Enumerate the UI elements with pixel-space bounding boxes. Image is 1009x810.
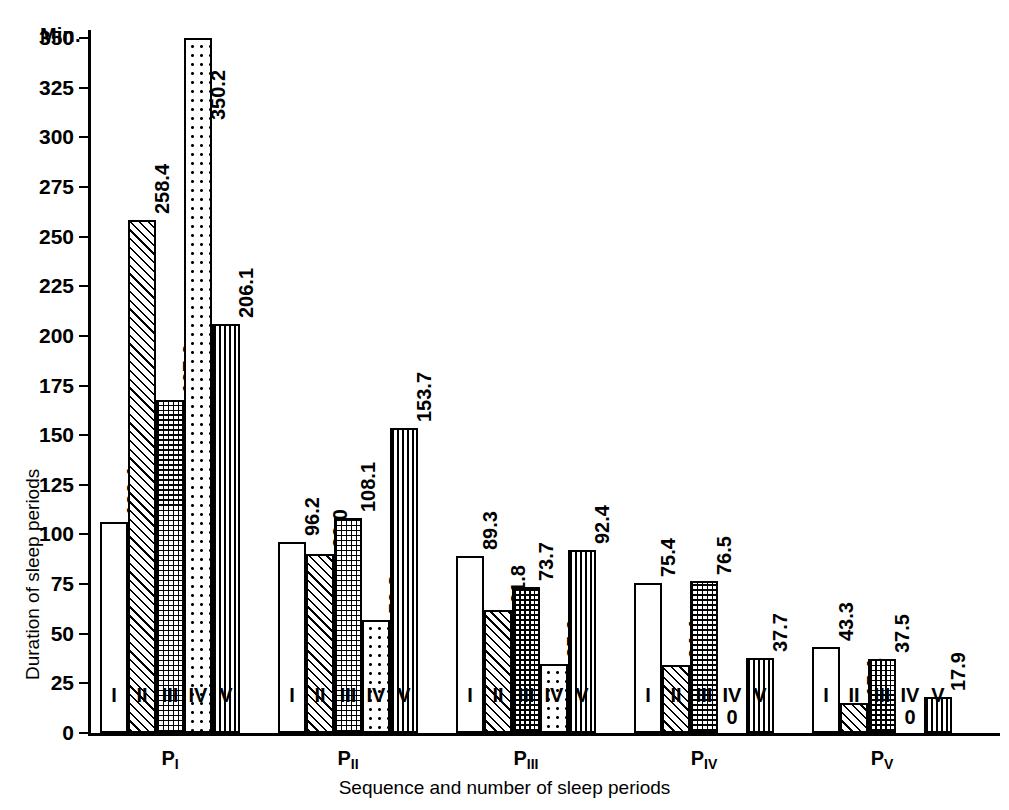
x-axis-line [88,733,1000,736]
y-tick-mark [79,633,88,635]
zero-value-marker: 0 [718,707,746,727]
y-tick-mark [79,732,88,734]
y-tick-label: 75 [2,572,74,596]
bar-value-label: 108.1 [358,462,378,512]
bar-roman-label: I [456,685,484,705]
y-tick-mark [79,136,88,138]
group-label-main: P [513,747,526,769]
group-label-sub: II [351,756,359,772]
bar-value-label: 37.7 [770,613,790,652]
y-tick-label: 225 [2,274,74,298]
bar-roman-label: II [128,685,156,705]
bar-i-ii [128,220,156,733]
bar-roman-label: V [924,685,952,705]
bar-value-label: 96.2 [302,497,322,536]
bar-roman-label: IV [896,685,924,705]
y-tick-label: 325 [2,76,74,100]
bar-value-label: 206.1 [236,268,256,318]
bar-roman-label: II [484,685,512,705]
bar-roman-label: IV [184,685,212,705]
y-tick-label: 150 [2,423,74,447]
x-axis-title: Sequence and number of sleep periods [0,777,1009,799]
bar-iii-iii [512,587,540,733]
y-tick-label: 175 [2,374,74,398]
bar-roman-label: V [390,685,418,705]
bar-value-label: 43.3 [836,602,856,641]
bar-iii-ii [484,610,512,733]
y-tick-label: 200 [2,324,74,348]
group-label-sub: V [884,756,893,772]
y-tick-mark [79,434,88,436]
bar-roman-label: I [812,685,840,705]
y-tick-label: 125 [2,473,74,497]
bar-roman-label: III [156,685,184,705]
bar-value-label: 76.5 [714,536,734,575]
bar-v-ii [840,703,868,733]
y-tick-mark [79,236,88,238]
y-axis-line [88,30,91,736]
y-tick-mark [79,37,88,39]
group-label-main: P [161,747,174,769]
bar-iv-i [634,583,662,733]
bar-roman-label: IV [718,685,746,705]
bar-roman-label: III [690,685,718,705]
group-label-main: P [691,747,704,769]
group-label-v: PV [772,747,992,770]
bar-roman-label: II [840,685,868,705]
bar-i-v [212,324,240,733]
bar-roman-label: III [334,685,362,705]
y-tick-mark [79,583,88,585]
bar-roman-label: I [634,685,662,705]
bar-roman-label: III [512,685,540,705]
group-label-sub: IV [704,756,717,772]
bar-roman-label: II [306,685,334,705]
bar-chart: Min. Duration of sleep periods Sequence … [0,0,1009,810]
y-tick-label: 300 [2,125,74,149]
y-tick-label: 250 [2,225,74,249]
bar-value-label: 258.4 [152,164,172,214]
bar-roman-label: I [100,685,128,705]
bar-value-label: 73.7 [536,542,556,581]
group-label-main: P [871,747,884,769]
bar-roman-label: V [212,685,240,705]
y-tick-label: 25 [2,671,74,695]
y-tick-mark [79,285,88,287]
y-tick-mark [79,533,88,535]
y-tick-label: 50 [2,622,74,646]
bar-ii-iv [362,620,390,733]
bar-value-label: 350.2 [208,70,228,120]
bar-iv-iii [690,581,718,733]
y-tick-label: 275 [2,175,74,199]
y-tick-mark [79,484,88,486]
group-label-main: P [337,747,350,769]
y-tick-mark [79,87,88,89]
bar-roman-label: V [746,685,774,705]
y-tick-label: 0 [2,721,74,745]
bar-value-label: 153.7 [414,372,434,422]
bar-roman-label: III [868,685,896,705]
y-tick-label: 350 [2,26,74,50]
bar-value-label: 89.3 [480,511,500,550]
bar-roman-label: IV [540,685,568,705]
bar-value-label: 92.4 [592,505,612,544]
y-tick-mark [79,385,88,387]
bar-roman-label: II [662,685,690,705]
bar-roman-label: IV [362,685,390,705]
zero-value-marker: 0 [896,707,924,727]
bar-roman-label: V [568,685,596,705]
group-label-sub: I [175,756,179,772]
y-tick-mark [79,186,88,188]
bar-iii-i [456,556,484,733]
bar-ii-ii [306,554,334,733]
bar-value-label: 37.5 [892,614,912,653]
bar-i-iv [184,38,212,733]
group-label-sub: III [527,756,539,772]
y-tick-mark [79,335,88,337]
bar-value-label: 75.4 [658,538,678,577]
y-tick-label: 100 [2,522,74,546]
bar-roman-label: I [278,685,306,705]
y-tick-mark [79,682,88,684]
